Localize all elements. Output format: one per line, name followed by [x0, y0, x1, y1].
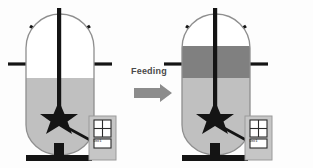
bioreactor-feeding-figure: Feeding Unit 5 Unit 5 [0, 0, 313, 168]
feeding-arrow [134, 84, 172, 102]
stand-column-right [210, 143, 220, 156]
control-panel-left[interactable] [89, 116, 116, 160]
control-panel-right[interactable] [245, 116, 272, 160]
stand-base-left [26, 155, 92, 161]
arrow-right-icon [134, 84, 172, 102]
feeding-label: Feeding [131, 66, 167, 76]
diagram-canvas [0, 0, 313, 168]
stand-base-right [182, 155, 248, 161]
panel-readout-text-left: Unit 5 [94, 140, 102, 143]
panel-readout-text-right: Unit 5 [250, 140, 258, 143]
stand-column-left [54, 143, 64, 156]
